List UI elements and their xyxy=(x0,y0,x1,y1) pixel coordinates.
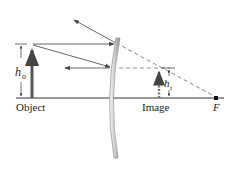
focal-point-label: F xyxy=(212,101,220,113)
image-label: Image xyxy=(142,101,170,113)
convex-mirror-diagram: Object Image F h o h i xyxy=(0,0,236,172)
focal-point-marker xyxy=(214,96,218,100)
object-height-subscript: o xyxy=(22,72,26,81)
reflected-ray-parallel xyxy=(74,20,116,43)
object-height-label: h xyxy=(15,65,21,79)
object-label: Object xyxy=(16,101,45,113)
image-height-subscript: i xyxy=(170,84,172,92)
incident-ray-toward-focus xyxy=(33,45,110,67)
